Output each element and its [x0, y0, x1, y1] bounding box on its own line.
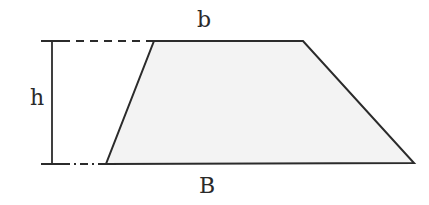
trapezoid-diagram: b h B: [0, 0, 429, 205]
height-label: h: [30, 85, 44, 110]
trapezoid-shape: [106, 41, 414, 164]
top-base-label: b: [197, 7, 211, 32]
bottom-base-label: B: [199, 173, 215, 198]
